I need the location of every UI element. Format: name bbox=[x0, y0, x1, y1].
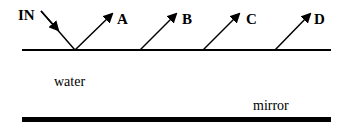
label-in: IN bbox=[18, 8, 35, 23]
label-c: C bbox=[246, 12, 257, 27]
incident-ray-line bbox=[41, 11, 75, 50]
reflection-diagram: IN A B C D water mirror bbox=[0, 0, 343, 125]
label-water: water bbox=[54, 75, 85, 89]
label-mirror: mirror bbox=[253, 99, 289, 113]
label-b: B bbox=[182, 12, 192, 27]
mirror-bar bbox=[22, 117, 331, 122]
ray-d-arrow bbox=[275, 14, 310, 50]
label-a: A bbox=[117, 12, 128, 27]
ray-a-arrow bbox=[75, 14, 112, 50]
diagram-graphics bbox=[0, 0, 343, 125]
ray-c-arrow bbox=[203, 14, 239, 50]
label-d: D bbox=[314, 12, 325, 27]
ray-b-arrow bbox=[140, 14, 176, 50]
